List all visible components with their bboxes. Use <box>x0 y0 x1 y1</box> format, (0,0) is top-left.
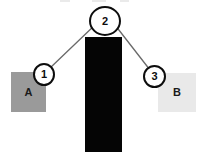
callout-marker-3[interactable]: 3 <box>143 65 166 88</box>
callout-marker-2[interactable]: 2 <box>89 6 121 36</box>
callout-marker-1-label: 1 <box>41 69 47 80</box>
callout-marker-1[interactable]: 1 <box>33 63 55 86</box>
shape-box-b-label: B <box>173 87 181 98</box>
center-black-bar[interactable] <box>85 37 122 152</box>
callout-marker-3-label: 3 <box>151 71 157 82</box>
callout-marker-2-label: 2 <box>102 16 108 27</box>
shape-box-a-label: A <box>25 87 33 98</box>
diagram-canvas: A B 1 2 3 <box>0 0 206 159</box>
